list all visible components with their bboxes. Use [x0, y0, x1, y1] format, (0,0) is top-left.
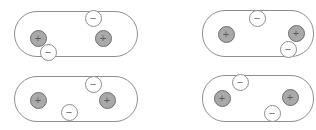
charge-sign-glyph: − — [237, 76, 243, 87]
charge-sign-glyph: + — [223, 28, 229, 39]
charge-sign-glyph: + — [293, 27, 299, 38]
charge-sign-glyph: − — [269, 107, 275, 118]
panel-top-left-charge-positive-right: + — [95, 30, 112, 47]
panel-top-left-charge-negative-upper: − — [85, 10, 102, 27]
panel-top-right-charge-negative-lower: − — [280, 41, 297, 58]
panel-bottom-left-charge-positive-left: + — [30, 92, 47, 109]
charge-sign-glyph: − — [90, 12, 96, 23]
charge-sign-glyph: + — [35, 32, 41, 43]
charge-sign-glyph: − — [285, 43, 291, 54]
panel-top-left-charge-negative-lower: − — [40, 44, 57, 61]
panel-bottom-right-charge-negative-upper: − — [232, 74, 249, 91]
panel-top-right-charge-positive-left: + — [218, 26, 235, 43]
charge-sign-glyph: − — [45, 46, 51, 57]
panel-bottom-left-charge-negative-upper: − — [85, 76, 102, 93]
charge-sign-glyph: + — [100, 32, 106, 43]
panel-bottom-left-charge-negative-bottom: − — [61, 104, 78, 121]
charge-sign-glyph: − — [66, 106, 72, 117]
charge-sign-glyph: + — [287, 91, 293, 102]
charge-sign-glyph: + — [219, 92, 225, 103]
charge-sign-glyph: − — [254, 12, 260, 23]
panel-bottom-right-charge-negative-lower: − — [264, 105, 281, 122]
charge-sign-glyph: − — [90, 78, 96, 89]
panel-bottom-left-charge-positive-right: + — [99, 92, 116, 109]
panel-top-right-charge-negative-upper: − — [249, 10, 266, 27]
charge-sign-glyph: + — [35, 94, 41, 105]
charge-diagram-figure: +−−++−+−+−−+−++− — [0, 0, 316, 130]
panel-bottom-right-charge-positive-left: + — [214, 90, 231, 107]
panel-bottom-right-charge-positive-right: + — [282, 89, 299, 106]
charge-sign-glyph: + — [104, 94, 110, 105]
panel-top-right-charge-positive-right: + — [288, 25, 305, 42]
